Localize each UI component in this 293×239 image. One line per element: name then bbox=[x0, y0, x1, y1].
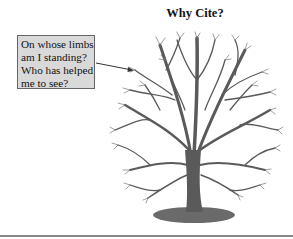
arrow-icon bbox=[96, 63, 134, 72]
trunk-icon bbox=[185, 150, 203, 212]
tree-illustration bbox=[0, 0, 293, 239]
bottom-rule bbox=[0, 235, 293, 237]
